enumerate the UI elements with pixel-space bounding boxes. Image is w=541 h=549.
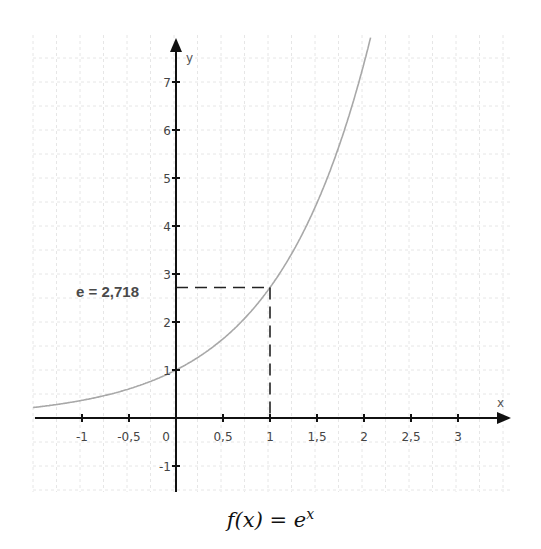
chart: -1-0,500,511,522,53-11234567 x y e = 2,7… (0, 0, 541, 549)
tick-labels: -1-0,500,511,522,53-11234567 (76, 76, 462, 474)
y-tick-label: 1 (163, 364, 171, 378)
x-tick-label: 0 (162, 430, 170, 444)
y-tick-label: 6 (163, 124, 171, 138)
x-axis-label: x (497, 396, 504, 410)
x-tick-label: -0,5 (117, 430, 140, 444)
x-tick-label: 2,5 (401, 430, 420, 444)
y-tick-label: 3 (163, 268, 171, 282)
x-tick-label: 1,5 (307, 430, 326, 444)
grid (33, 35, 510, 492)
x-tick-label: 3 (454, 430, 462, 444)
x-tick-label: 2 (360, 430, 368, 444)
e-guide-lines (176, 288, 270, 418)
e-value-annotation: e = 2,718 (76, 283, 139, 300)
y-tick-label: 2 (163, 316, 171, 330)
x-tick-label: 1 (266, 430, 274, 444)
x-tick-label: 0,5 (213, 430, 232, 444)
title-text: f(x) = e (227, 508, 306, 532)
title-exponent: x (306, 506, 314, 522)
y-tick-label: 7 (163, 76, 171, 90)
y-tick-label: -1 (159, 460, 171, 474)
curve (33, 38, 371, 408)
chart-title: f(x) = ex (0, 506, 541, 532)
y-tick-label: 4 (163, 220, 171, 234)
x-tick-label: -1 (76, 430, 88, 444)
y-tick-label: 5 (163, 172, 171, 186)
y-axis-label: y (186, 51, 193, 65)
